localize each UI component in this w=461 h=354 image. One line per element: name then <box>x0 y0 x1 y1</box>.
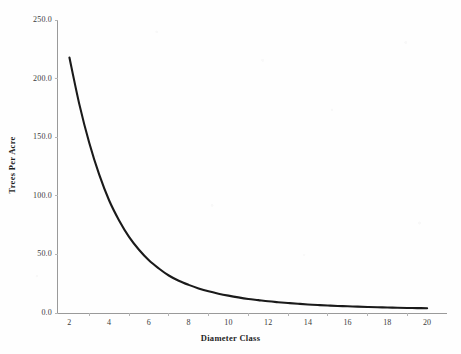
y-tick-label: 0.0 <box>8 308 52 317</box>
plot-area <box>0 0 461 354</box>
x-tick-label: 16 <box>333 318 363 327</box>
y-tick-label: 200.0 <box>8 74 52 83</box>
x-tick-label: 10 <box>213 318 243 327</box>
y-axis-title: Trees Per Acre <box>7 115 17 215</box>
x-tick-label: 14 <box>293 318 323 327</box>
y-tick-label: 250.0 <box>8 15 52 24</box>
x-tick-label: 4 <box>94 318 124 327</box>
x-tick-label: 12 <box>253 318 283 327</box>
x-tick-label: 20 <box>412 318 442 327</box>
x-tick-label: 18 <box>372 318 402 327</box>
data-series-line <box>69 58 427 309</box>
x-tick-label: 6 <box>134 318 164 327</box>
x-tick-label: 2 <box>54 318 84 327</box>
x-tick-label: 8 <box>174 318 204 327</box>
x-axis-title: Diameter Class <box>0 333 461 343</box>
chart-container: 250.0200.0150.0100.050.00.0 246810121416… <box>0 0 461 354</box>
y-tick-label: 50.0 <box>8 249 52 258</box>
